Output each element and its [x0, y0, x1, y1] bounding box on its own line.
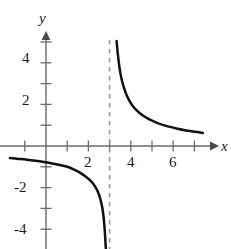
x-tick-label-4: 4 — [127, 155, 135, 170]
y-axis-arrowhead — [42, 31, 51, 40]
x-tick-label-6: 6 — [169, 155, 177, 170]
y-tick-label-neg4: -4 — [14, 222, 27, 237]
curve-group — [10, 41, 203, 249]
plot-canvas — [0, 0, 231, 249]
x-axis-label: x — [221, 139, 228, 154]
y-tick-label-2: 2 — [22, 93, 30, 108]
graph-figure: y x 4 2 -2 -4 2 4 6 — [0, 0, 231, 249]
y-axis-label: y — [39, 11, 46, 26]
x-tick-label-2: 2 — [84, 155, 92, 170]
x-axis-arrowhead — [210, 142, 219, 151]
y-axis — [42, 31, 51, 249]
y-tick-label-4: 4 — [22, 51, 30, 66]
y-tick-label-neg2: -2 — [14, 180, 27, 195]
curve-right-branch — [117, 41, 203, 133]
